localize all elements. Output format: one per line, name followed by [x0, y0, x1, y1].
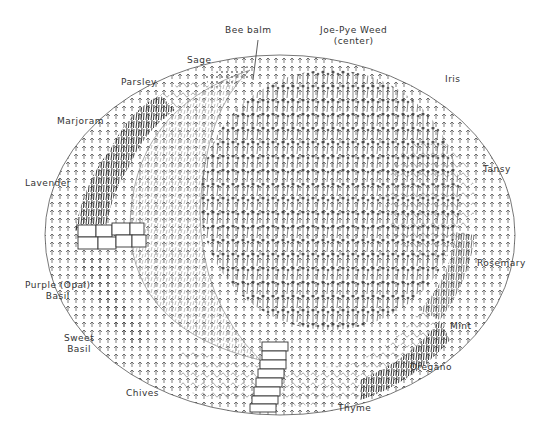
label-rosemary: Rosemary — [477, 258, 526, 269]
label-joe-pye-line1: Joe-Pye Weed — [320, 25, 387, 36]
garden-drawing — [0, 0, 551, 435]
label-thyme: Thyme — [338, 403, 371, 414]
label-mint: Mint — [450, 321, 472, 332]
label-sage: Sage — [187, 55, 211, 66]
label-marjoram: Marjoram — [57, 116, 104, 127]
label-joe-pye-weed: Joe-Pye Weed (center) — [320, 25, 387, 47]
west-stone-path — [78, 223, 146, 249]
label-lavender: Lavender — [25, 178, 71, 189]
label-purple-basil-line1: Purple (Opal) — [25, 280, 91, 291]
label-joe-pye-line2: (center) — [320, 36, 387, 47]
label-sweet-basil-line2: Basil — [64, 344, 94, 355]
label-sweet-basil: Sweet Basil — [64, 333, 94, 355]
label-bee-balm: Bee balm — [225, 25, 272, 36]
label-sweet-basil-line1: Sweet — [64, 333, 94, 344]
tansy-bed — [385, 140, 475, 260]
label-parsley: Parsley — [121, 77, 157, 88]
label-purple-basil: Purple (Opal) Basil — [25, 280, 91, 302]
label-chives: Chives — [126, 388, 159, 399]
label-purple-basil-line2: Basil — [25, 291, 91, 302]
label-tansy: Tansy — [483, 164, 511, 175]
label-oregano: Oregano — [410, 362, 452, 373]
label-iris: Iris — [445, 74, 461, 85]
